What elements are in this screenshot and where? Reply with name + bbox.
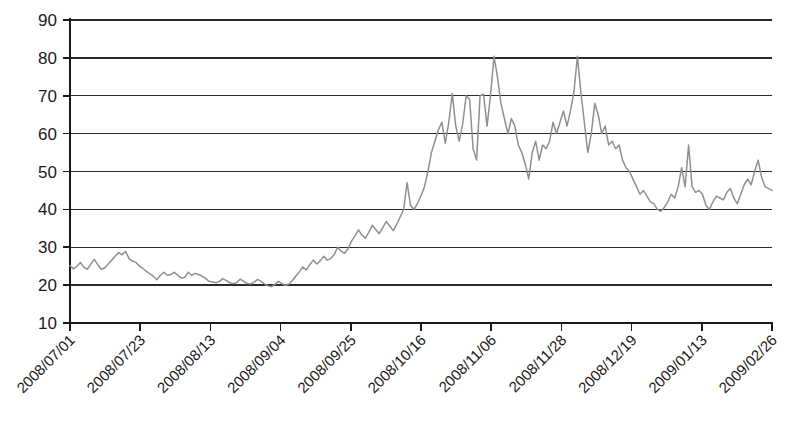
y-tick-label: 10 [38,314,57,333]
x-tick-label: 2008/09/04 [224,331,289,396]
line-chart: 102030405060708090 2008/07/012008/07/232… [0,0,794,436]
x-tick-label: 2008/08/13 [153,331,218,396]
chart-container: 102030405060708090 2008/07/012008/07/232… [0,0,794,436]
x-tick-label: 2008/07/23 [83,331,148,396]
y-axis-labels-group: 102030405060708090 [38,11,57,333]
xaxis-tickmarks-group [70,323,772,331]
x-tick-label: 2008/10/16 [364,331,429,396]
y-tick-label: 20 [38,276,57,295]
x-tick-label: 2009/02/26 [715,331,780,396]
y-tick-label: 50 [38,163,57,182]
x-axis-labels-group: 2008/07/012008/07/232008/08/132008/09/04… [13,331,780,396]
x-tick-label: 2008/11/28 [505,331,569,395]
x-tick-label: 2009/01/13 [645,331,710,396]
y-tick-label: 60 [38,125,57,144]
x-tick-label: 2008/07/01 [13,331,78,396]
y-tick-label: 90 [38,11,57,30]
x-tick-label: 2008/11/06 [435,331,499,395]
y-tick-label: 30 [38,238,57,257]
y-tick-label: 80 [38,49,57,68]
gridlines-group [63,20,772,323]
y-tick-label: 70 [38,87,57,106]
y-tick-label: 40 [38,200,57,219]
x-tick-label: 2008/09/25 [294,331,359,396]
x-tick-label: 2008/12/19 [575,331,640,396]
